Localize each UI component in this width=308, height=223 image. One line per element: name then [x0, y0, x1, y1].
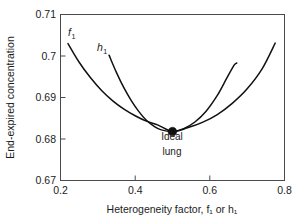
- y-tick-label-0: 0.71: [36, 8, 57, 20]
- x-tick-label-0: 0.2: [53, 184, 68, 196]
- x-tick-label-1: 0.4: [128, 184, 143, 196]
- y-tick-label-3: 0.68: [36, 133, 57, 145]
- x-axis-title-text: Heterogeneity factor, f₁ or h₁: [107, 203, 238, 215]
- x-axis-title: Heterogeneity factor, f₁ or h₁: [107, 203, 238, 215]
- x-axis-ticks: [61, 176, 285, 181]
- y-tick-label-2: 0.69: [36, 91, 57, 103]
- chart-plot-area: 0.71 0.7 0.69 0.68 0.67 0.2 0.4 0.6 0.8 …: [0, 0, 308, 223]
- x-tick-label-2: 0.6: [202, 184, 217, 196]
- data-curve-h1: [109, 55, 237, 131]
- y-axis-title: End-expired concentration: [4, 36, 16, 159]
- y-tick-label-1: 0.7: [41, 50, 56, 62]
- curve-label-f1: f1: [68, 26, 75, 41]
- curve-label-h1: h1: [97, 41, 107, 56]
- curve-label-h1-text: h: [97, 41, 103, 53]
- y-axis-ticks: [61, 15, 66, 181]
- ideal-lung-label-line1: Ideal: [161, 131, 183, 142]
- ideal-lung-label-line2: lung: [163, 146, 182, 157]
- data-curve-f1: [68, 43, 275, 131]
- chart-figure: 0.71 0.7 0.69 0.68 0.67 0.2 0.4 0.6 0.8 …: [0, 0, 308, 223]
- curve-label-f1-sub: 1: [71, 32, 75, 41]
- curve-label-h1-sub: 1: [103, 47, 107, 56]
- x-tick-label-3: 0.8: [277, 184, 292, 196]
